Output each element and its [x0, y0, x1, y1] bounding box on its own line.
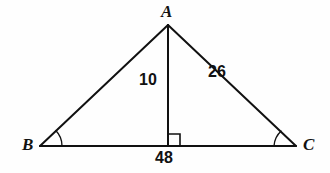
- triangle-figure: [0, 0, 330, 173]
- angle-arc-b-icon: [56, 130, 63, 146]
- side-AC-line: [168, 25, 296, 146]
- geometry-diagram: A B C 10 26 48: [0, 0, 330, 173]
- side-ac-length-label: 26: [208, 64, 226, 80]
- altitude-length-label: 10: [139, 72, 157, 88]
- vertex-label-a: A: [161, 3, 172, 20]
- right-angle-square-icon: [168, 134, 180, 146]
- angle-arc-c-icon: [274, 131, 282, 146]
- vertex-label-c: C: [303, 136, 314, 153]
- vertex-label-b: B: [22, 136, 33, 153]
- base-length-label: 48: [155, 150, 173, 166]
